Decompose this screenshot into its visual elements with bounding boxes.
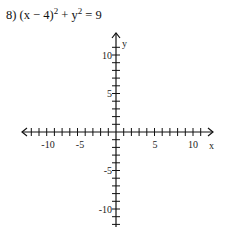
x-axis-label: x	[209, 140, 214, 151]
y-tick-label: 10	[102, 50, 112, 61]
y-tick-label: -10	[99, 204, 112, 215]
x-tick-label: -5	[76, 139, 84, 150]
coordinate-plane[interactable]: -10 -5 5 10 x 10 5 -5 -10 y	[0, 0, 225, 227]
y-tick-label: -5	[104, 165, 112, 176]
x-tick-label: 5	[153, 139, 158, 150]
y-tick-label: 5	[107, 88, 112, 99]
x-tick-label: 10	[188, 139, 198, 150]
axes	[22, 33, 213, 227]
y-axis-label: y	[122, 38, 127, 49]
x-tick-label: -10	[41, 139, 54, 150]
